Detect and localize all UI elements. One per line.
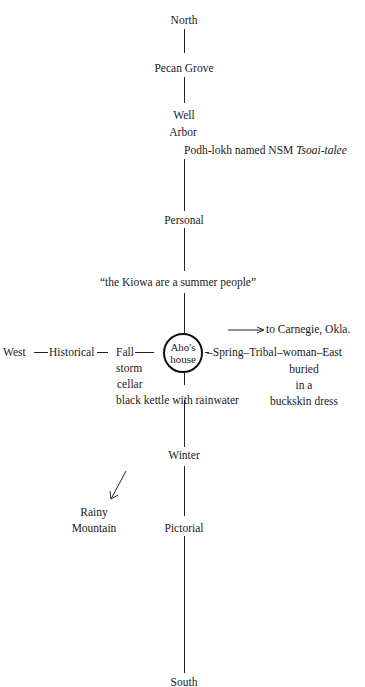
label-winter: Winter xyxy=(168,448,199,462)
label-arbor: Arbor xyxy=(169,125,196,139)
axis-north-segment-2 xyxy=(184,77,185,103)
label-in-a: in a xyxy=(296,378,313,392)
axis-south-segment-3 xyxy=(184,466,185,516)
axis-north-segment-5 xyxy=(184,293,185,333)
label-kettle: black kettle with rainwater xyxy=(116,393,239,407)
label-rainy: Rainy xyxy=(80,505,107,519)
label-north: North xyxy=(171,13,198,27)
label-carnegie: to Carnegie, Okla. xyxy=(266,322,350,336)
label-personal: Personal xyxy=(164,213,204,227)
axis-south-segment-4 xyxy=(184,536,185,673)
label-pictorial: Pictorial xyxy=(165,521,204,535)
label-pecan-grove: Pecan Grove xyxy=(154,61,213,75)
label-historical: Historical xyxy=(49,345,94,359)
label-tribal: Tribal xyxy=(249,346,277,358)
label-woman: woman xyxy=(283,346,317,358)
west-connector-3 xyxy=(135,352,154,353)
label-well: Well xyxy=(173,108,194,122)
label-buried: buried xyxy=(289,362,318,376)
label-cellar: cellar xyxy=(117,377,143,391)
axis-north-segment-4 xyxy=(184,228,185,271)
label-fall: Fall xyxy=(116,345,134,359)
label-spring: Spring xyxy=(213,346,244,358)
label-south: South xyxy=(171,675,198,687)
west-connector-2 xyxy=(97,352,108,353)
center-label-line1: Aho's xyxy=(170,341,195,353)
arrow-down-left-icon xyxy=(108,470,128,502)
label-east: East xyxy=(322,346,342,358)
arrow-right-icon xyxy=(228,326,268,334)
west-connector-1 xyxy=(34,352,48,353)
label-mountain: Mountain xyxy=(72,521,117,535)
label-quote: “the Kiowa are a summer people” xyxy=(100,275,256,289)
axis-north-segment-1 xyxy=(184,29,185,53)
axis-south-segment-1 xyxy=(184,373,185,385)
label-naming-prefix: Podh-lokh named NSM xyxy=(184,144,296,156)
label-buckskin: buckskin dress xyxy=(270,394,338,408)
center-node-ahos-house: Aho's house xyxy=(163,333,203,373)
center-label-line2: house xyxy=(170,353,196,365)
label-storm: storm xyxy=(116,361,142,375)
label-naming: Podh-lokh named NSM Tsoai-talee xyxy=(184,143,347,157)
axis-south-segment-2 xyxy=(184,400,185,447)
axis-north-segment-3 xyxy=(184,159,185,211)
label-west: West xyxy=(3,345,26,359)
label-east-chain: –Spring–Tribal–woman–East xyxy=(207,345,342,359)
label-naming-name: Tsoai-talee xyxy=(296,144,347,156)
